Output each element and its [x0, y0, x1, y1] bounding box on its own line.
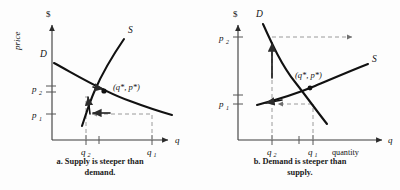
x-axis-title-b: q	[388, 135, 393, 145]
panel-b-caption-line1: b. Demand is steeper than	[200, 157, 400, 168]
y-axis-title-a: price	[12, 32, 22, 52]
demand-curve-label-a: D	[39, 49, 47, 59]
y-axis-unit-b: $	[233, 9, 238, 19]
x-tick-label-q2-b: q	[267, 147, 272, 157]
x-tick-label-q1-a: q	[147, 147, 152, 157]
supply-curve-label-b: S	[372, 54, 377, 64]
panel-a-caption: a. Supply is steeper than demand.	[0, 157, 200, 178]
x-tick-label-q1-b: q	[308, 147, 313, 157]
demand-curve-label-b: D	[255, 9, 263, 19]
y-tick-label-p2-b: p	[218, 33, 224, 43]
y-tick-label-p1-a: p	[31, 110, 37, 120]
panel-a-plot: $ price q p 2 p 1 q 2 q 1 D S (q*, p*)	[0, 0, 200, 160]
y-tick-sub-p2-a: 2	[39, 90, 42, 96]
panel-a-caption-line1: a. Supply is steeper than	[0, 157, 200, 168]
equilibrium-point-b	[308, 86, 313, 91]
y-tick-sub-p1-a: 1	[39, 116, 42, 122]
equilibrium-point-a	[101, 88, 106, 93]
supply-curve-label-a: S	[128, 25, 133, 35]
equilibrium-label-b: (q*, p*)	[295, 70, 322, 80]
panel-b-caption-line2: supply.	[200, 168, 400, 179]
y-axis-unit-a: $	[46, 9, 51, 19]
panel-a-supply-steeper: $ price q p 2 p 1 q 2 q 1 D S (q*, p*) a…	[0, 0, 200, 190]
price-adjust-arrow-a	[88, 97, 90, 114]
panel-b-demand-steeper: $ q quantity p 2 p 1 q 2 q 1 D S (q*, p*…	[200, 0, 400, 190]
x-axis-title-a: q	[175, 135, 180, 145]
equilibrium-label-a: (q*, p*)	[113, 82, 140, 92]
panel-a-caption-line2: demand.	[0, 168, 200, 179]
y-tick-label-p2-a: p	[31, 84, 37, 94]
panel-b-caption: b. Demand is steeper than supply.	[200, 157, 400, 178]
panel-b-plot: $ q quantity p 2 p 1 q 2 q 1 D S (q*, p*…	[200, 0, 400, 160]
y-tick-sub-p2-b: 2	[226, 39, 229, 45]
x-axis-word-label-b: quantity	[332, 148, 360, 157]
figure-container: $ price q p 2 p 1 q 2 q 1 D S (q*, p*) a…	[0, 0, 400, 190]
y-tick-label-p1-b: p	[218, 99, 224, 109]
x-tick-label-q2-a: q	[81, 147, 86, 157]
y-tick-sub-p1-b: 1	[226, 105, 229, 111]
